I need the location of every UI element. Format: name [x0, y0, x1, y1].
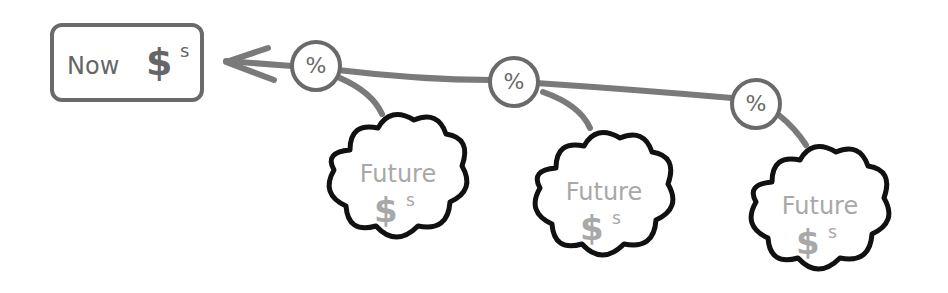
percent-icon: % — [296, 53, 336, 78]
percent-icon: % — [736, 91, 776, 116]
future-dollar-icon: $ — [580, 208, 604, 248]
future-dollar-icon: $ — [796, 222, 820, 262]
future-label: Future — [765, 192, 875, 220]
future-superscript: s — [828, 222, 837, 242]
branch-1 — [340, 78, 382, 114]
now-dollar-icon: $ — [146, 40, 172, 84]
branch-3 — [780, 116, 806, 145]
future-superscript: s — [612, 208, 621, 228]
branch-2 — [543, 92, 590, 128]
future-superscript: s — [406, 190, 415, 210]
future-dollar-icon: $ — [374, 190, 398, 230]
future-label: Future — [343, 160, 453, 188]
now-label: Now — [67, 52, 119, 80]
now-superscript: s — [180, 40, 189, 61]
future-label: Future — [549, 178, 659, 206]
percent-icon: % — [494, 69, 534, 94]
